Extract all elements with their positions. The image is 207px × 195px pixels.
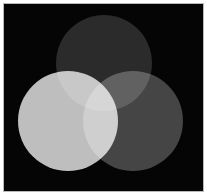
figure-root <box>0 0 207 195</box>
venn-circle-lower-right <box>83 71 183 171</box>
diagram-canvas <box>4 4 203 191</box>
